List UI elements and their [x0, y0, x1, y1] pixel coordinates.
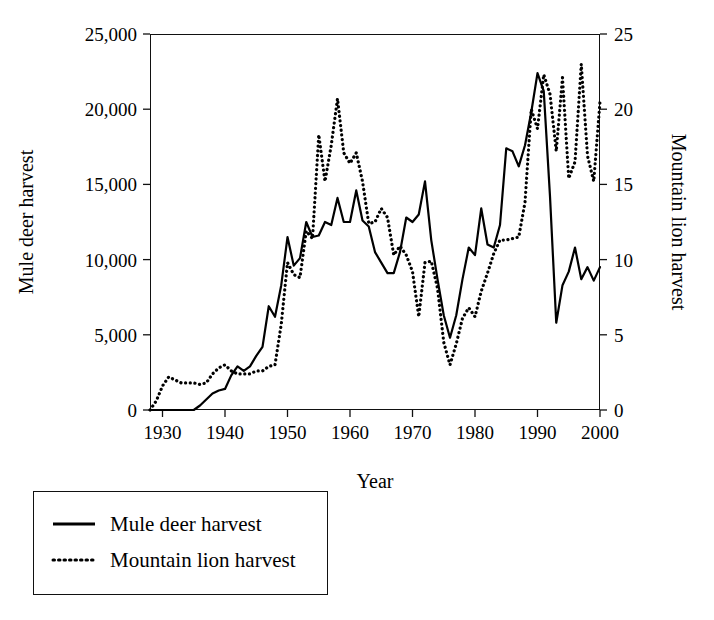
y-axis-right-tick-label: 10 — [614, 250, 633, 269]
legend-label-mule-deer: Mule deer harvest — [110, 514, 262, 535]
legend-item-mountain-lion: Mountain lion harvest — [52, 547, 295, 573]
chart-figure: 05,00010,00015,00020,00025,000 051015202… — [0, 0, 714, 620]
x-axis-tick-label: 1940 — [206, 423, 244, 442]
x-axis-tick-label: 1960 — [331, 423, 369, 442]
series-line-2 — [150, 64, 600, 410]
y-axis-left-tick-label: 15,000 — [85, 175, 137, 194]
series-line-1 — [150, 73, 600, 410]
y-axis-left-tick-label: 20,000 — [85, 100, 137, 119]
x-axis-tick-label: 1980 — [456, 423, 494, 442]
y-axis-left-title: Mule deer harvest — [15, 150, 38, 294]
legend-label-mountain-lion: Mountain lion harvest — [110, 550, 295, 571]
x-axis-tick-label: 1990 — [519, 423, 557, 442]
x-axis-tick-label: 1950 — [269, 423, 307, 442]
x-axis-tick-label: 2000 — [581, 423, 619, 442]
legend: Mule deer harvest Mountain lion harvest — [33, 491, 328, 595]
y-axis-left-tick-label: 5,000 — [94, 325, 137, 344]
x-axis-title: Year — [357, 470, 394, 493]
y-axis-left-tick-label: 10,000 — [85, 250, 137, 269]
y-axis-right-title: Mountain lion harvest — [667, 134, 690, 311]
dotted-line-icon — [52, 553, 96, 567]
y-axis-right-tick-label: 15 — [614, 175, 633, 194]
y-axis-right-tick-label: 0 — [614, 401, 624, 420]
y-axis-right-tick-label: 20 — [614, 100, 633, 119]
x-axis-tick-label: 1970 — [394, 423, 432, 442]
y-axis-left-tick-label: 25,000 — [85, 25, 137, 44]
legend-item-mule-deer: Mule deer harvest — [52, 511, 262, 537]
y-axis-right-tick-label: 5 — [614, 325, 624, 344]
x-axis-tick-label: 1930 — [144, 423, 182, 442]
y-axis-right-tick-label: 25 — [614, 25, 633, 44]
y-axis-left-tick-label: 0 — [128, 401, 138, 420]
solid-line-icon — [52, 517, 96, 531]
